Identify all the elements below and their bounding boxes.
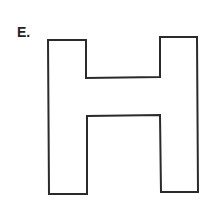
- figure-canvas: E.: [0, 0, 211, 207]
- letter-h-outline-icon: [0, 0, 211, 207]
